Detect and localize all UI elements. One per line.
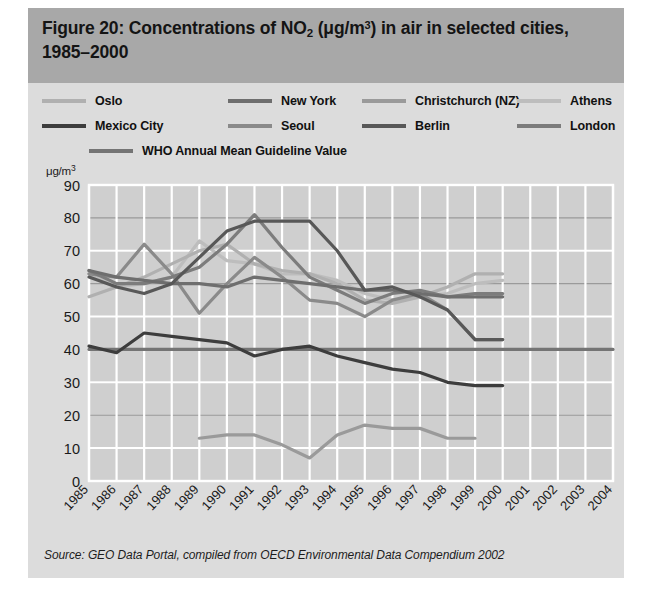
x-axis-tick-label: 2000 (474, 482, 505, 513)
legend-item[interactable]: Mexico City (42, 115, 163, 137)
svg-text:1985: 1985 (60, 482, 91, 513)
x-axis-tick-label: 2003 (557, 482, 588, 513)
legend-row: OsloNew YorkChristchurch (NZ)Athens (42, 90, 618, 112)
legend-label: Berlin (415, 119, 450, 133)
svg-text:2003: 2003 (557, 482, 588, 513)
legend-swatch-icon (228, 99, 272, 103)
legend-label: Mexico City (95, 119, 163, 133)
y-axis-tick-label: 20 (64, 408, 80, 424)
source-note: Source: GEO Data Portal, compiled from O… (44, 548, 610, 562)
svg-text:1987: 1987 (116, 482, 147, 513)
y-axis-tick-label: 60 (64, 276, 80, 292)
x-axis-tick-label: 1987 (116, 482, 147, 513)
legend-swatch-icon (517, 124, 561, 128)
figure-container: Figure 20: Concentrations of NO2 (μg/m3)… (28, 8, 624, 578)
plot-background (89, 185, 613, 481)
svg-text:2002: 2002 (529, 482, 560, 513)
y-axis-tick-label: 30 (64, 375, 80, 391)
y-axis-tick-label: 80 (64, 210, 80, 226)
svg-text:1986: 1986 (88, 482, 119, 513)
x-axis-tick-label: 1989 (171, 482, 202, 513)
x-axis-tick-label: 1999 (447, 482, 478, 513)
x-axis-tick-label: 1993 (281, 482, 312, 513)
legend-label: New York (281, 94, 336, 108)
svg-text:1989: 1989 (171, 482, 202, 513)
legend-item[interactable]: London (517, 115, 615, 137)
svg-text:1994: 1994 (309, 482, 340, 513)
x-axis-tick-label: 1990 (198, 482, 229, 513)
svg-text:1993: 1993 (281, 482, 312, 513)
legend-swatch-icon (89, 149, 133, 153)
y-axis-tick-label: 70 (64, 243, 80, 259)
legend-item[interactable]: New York (228, 90, 336, 112)
title-prefix: Figure 20: Concentrations of NO (42, 18, 307, 38)
y-axis-tick-label: 50 (64, 309, 80, 325)
legend-swatch-icon (362, 99, 406, 103)
x-axis-tick-label: 1992 (254, 482, 285, 513)
x-axis-tick-label: 1991 (226, 482, 257, 513)
x-axis-tick-label: 2001 (502, 482, 533, 513)
legend-swatch-icon (362, 124, 406, 128)
figure-title-band: Figure 20: Concentrations of NO2 (μg/m3)… (28, 8, 624, 83)
legend-item[interactable]: Oslo (42, 90, 122, 112)
legend-label: Seoul (281, 119, 315, 133)
x-axis-tick-label: 1998 (419, 482, 450, 513)
legend-item[interactable]: WHO Annual Mean Guideline Value (89, 140, 347, 162)
x-axis-tick-label: 2004 (584, 482, 615, 513)
y-axis-tick-label: 40 (64, 342, 80, 358)
svg-text:1991: 1991 (226, 482, 257, 513)
x-axis-tick-label: 1986 (88, 482, 119, 513)
svg-text:2000: 2000 (474, 482, 505, 513)
legend-row: WHO Annual Mean Guideline Value (42, 140, 618, 162)
page-title: Figure 20: Concentrations of NO2 (μg/m3)… (42, 17, 602, 64)
legend-item[interactable]: Seoul (228, 115, 315, 137)
svg-text:2001: 2001 (502, 482, 533, 513)
legend-swatch-icon (228, 124, 272, 128)
chart-legend: OsloNew YorkChristchurch (NZ)AthensMexic… (42, 90, 618, 162)
legend-row: Mexico CitySeoulBerlinLondon (42, 115, 618, 137)
x-axis-tick-label: 2002 (529, 482, 560, 513)
legend-item[interactable]: Berlin (362, 115, 450, 137)
svg-text:1990: 1990 (198, 482, 229, 513)
svg-text:2004: 2004 (584, 482, 615, 513)
legend-label: Athens (570, 94, 612, 108)
x-axis-tick-label: 1996 (364, 482, 395, 513)
legend-swatch-icon (42, 124, 86, 128)
legend-swatch-icon (42, 99, 86, 103)
legend-swatch-icon (517, 99, 561, 103)
y-axis-tick-label: 90 (64, 178, 80, 194)
legend-label: WHO Annual Mean Guideline Value (142, 144, 347, 158)
chart-area: μg/m3 0102030405060708090198519861987198… (42, 163, 618, 548)
title-mid: (μg/m (313, 18, 365, 38)
legend-label: London (570, 119, 615, 133)
svg-text:1992: 1992 (254, 482, 285, 513)
legend-item[interactable]: Christchurch (NZ) (362, 90, 520, 112)
legend-item[interactable]: Athens (517, 90, 612, 112)
legend-label: Christchurch (NZ) (415, 94, 520, 108)
line-chart-plot: 0102030405060708090198519861987198819891… (42, 163, 618, 548)
svg-text:1999: 1999 (447, 482, 478, 513)
svg-text:1996: 1996 (364, 482, 395, 513)
x-axis-tick-label: 1988 (143, 482, 174, 513)
svg-text:1998: 1998 (419, 482, 450, 513)
x-axis-tick-label: 1997 (391, 482, 422, 513)
x-axis-tick-label: 1995 (336, 482, 367, 513)
x-axis-tick-label: 1994 (309, 482, 340, 513)
svg-text:1997: 1997 (391, 482, 422, 513)
x-axis-tick-label: 1985 (60, 482, 91, 513)
svg-text:1988: 1988 (143, 482, 174, 513)
y-axis-tick-label: 10 (64, 441, 80, 457)
legend-label: Oslo (95, 94, 122, 108)
svg-text:1995: 1995 (336, 482, 367, 513)
